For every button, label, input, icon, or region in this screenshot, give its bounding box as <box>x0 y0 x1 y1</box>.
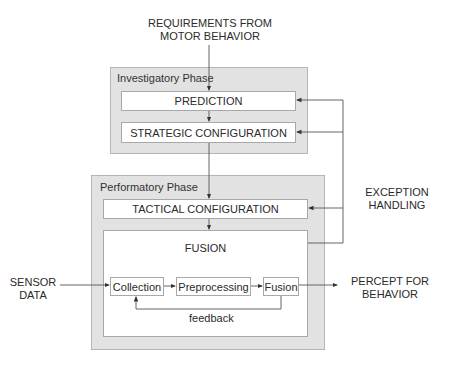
connector-lines <box>0 0 450 367</box>
